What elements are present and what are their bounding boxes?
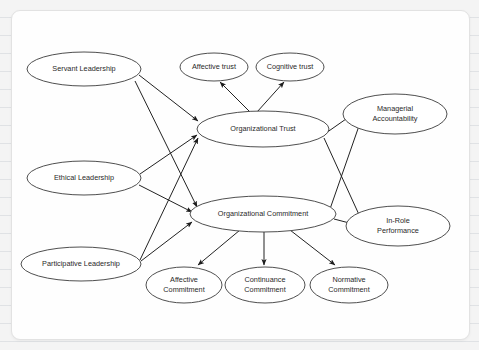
edge-organizational_commitment-to-normative_commitment xyxy=(290,230,335,265)
node-label-in_role_performance-line2: Performance xyxy=(377,226,419,235)
node-in_role_performance[interactable]: In-RolePerformance xyxy=(346,206,450,246)
node-organizational_commitment[interactable]: Organizational Commitment xyxy=(190,196,336,232)
node-cognitive_trust[interactable]: Cognitive trust xyxy=(256,53,324,81)
node-managerial_accountability[interactable]: ManagerialAccountability xyxy=(343,94,447,134)
edge-organizational_commitment-to-managerial_accountability xyxy=(330,123,360,209)
node-affective_trust[interactable]: Affective trust xyxy=(180,53,248,81)
node-label-participative_leadership: Participative Leadership xyxy=(42,259,120,268)
node-label-managerial_accountability-line2: Accountability xyxy=(372,114,417,123)
node-label-organizational_commitment: Organizational Commitment xyxy=(218,209,308,218)
path-model-diagram: Servant LeadershipEthical LeadershipPart… xyxy=(12,11,469,339)
node-label-affective_trust: Affective trust xyxy=(192,62,236,71)
node-participative_leadership[interactable]: Participative Leadership xyxy=(21,247,141,281)
node-label-normative_commitment-line2: Commitment xyxy=(328,285,369,294)
node-ethical_leadership[interactable]: Ethical Leadership xyxy=(27,161,141,195)
edge-organizational_trust-to-cognitive_trust xyxy=(257,82,284,112)
edge-participative_leadership-to-organizational_trust xyxy=(140,138,198,260)
edge-servant_leadership-to-organizational_trust xyxy=(139,75,198,121)
diagram-card: Servant LeadershipEthical LeadershipPart… xyxy=(11,10,470,340)
node-affective_commitment[interactable]: AffectiveCommitment xyxy=(146,267,222,303)
node-label-cognitive_trust: Cognitive trust xyxy=(267,62,314,71)
node-label-managerial_accountability-line1: Managerial xyxy=(377,104,413,113)
node-servant_leadership[interactable]: Servant Leadership xyxy=(27,52,141,86)
node-organizational_trust[interactable]: Organizational Trust xyxy=(197,111,329,147)
edge-organizational_trust-to-affective_trust xyxy=(220,82,250,112)
node-label-servant_leadership: Servant Leadership xyxy=(52,64,115,73)
node-normative_commitment[interactable]: NormativeCommitment xyxy=(310,267,388,303)
node-label-affective_commitment-line1: Affective xyxy=(170,275,198,284)
node-label-organizational_trust: Organizational Trust xyxy=(230,124,295,133)
nodes-layer: Servant LeadershipEthical LeadershipPart… xyxy=(21,52,450,303)
node-label-continuance_commitment-line2: Commitment xyxy=(244,285,285,294)
node-label-ethical_leadership: Ethical Leadership xyxy=(54,173,114,182)
node-label-continuance_commitment-line1: Continuance xyxy=(245,275,286,284)
edge-ethical_leadership-to-organizational_trust xyxy=(140,135,197,174)
edges-layer xyxy=(135,75,361,265)
node-continuance_commitment[interactable]: ContinuanceCommitment xyxy=(225,267,305,303)
edge-ethical_leadership-to-organizational_commitment xyxy=(139,185,192,212)
node-label-normative_commitment-line1: Normative xyxy=(332,275,365,284)
node-label-in_role_performance-line1: In-Role xyxy=(386,216,410,225)
edge-organizational_commitment-to-affective_commitment xyxy=(198,230,240,265)
node-label-affective_commitment-line2: Commitment xyxy=(163,285,204,294)
